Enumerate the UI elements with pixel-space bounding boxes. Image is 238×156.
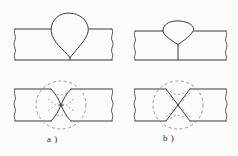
plate-break-line-right [226, 31, 227, 60]
plate-break-line-left [14, 89, 15, 121]
inner-chevron-right [67, 99, 75, 111]
fracture-centre-dot [177, 104, 179, 106]
plate-break-line-right [226, 89, 227, 121]
panel-bottom-right [134, 81, 227, 129]
figure-drawing: .solid { fill: none; stroke: #3a3a3a; st… [0, 0, 238, 156]
plate-break-line-right [112, 29, 113, 60]
panel-bottom-left [14, 81, 113, 129]
caption-b: b ) [163, 133, 174, 143]
weld-bead-rounded-triangle [163, 21, 194, 45]
plate-break-line-left [14, 29, 15, 60]
plate-break-line-left [134, 31, 135, 60]
figure-container: .solid { fill: none; stroke: #3a3a3a; st… [0, 0, 238, 156]
panel-top-left [14, 13, 113, 60]
plate-break-line-left [134, 89, 135, 121]
inner-chevron-left [48, 99, 56, 111]
weld-bead-teardrop [51, 13, 88, 57]
plate-break-line-right [112, 89, 113, 121]
inner-arc-bottom [170, 116, 186, 119]
inner-arc-top [170, 92, 186, 95]
caption-a: a ) [47, 134, 58, 144]
panel-top-right [134, 21, 227, 60]
